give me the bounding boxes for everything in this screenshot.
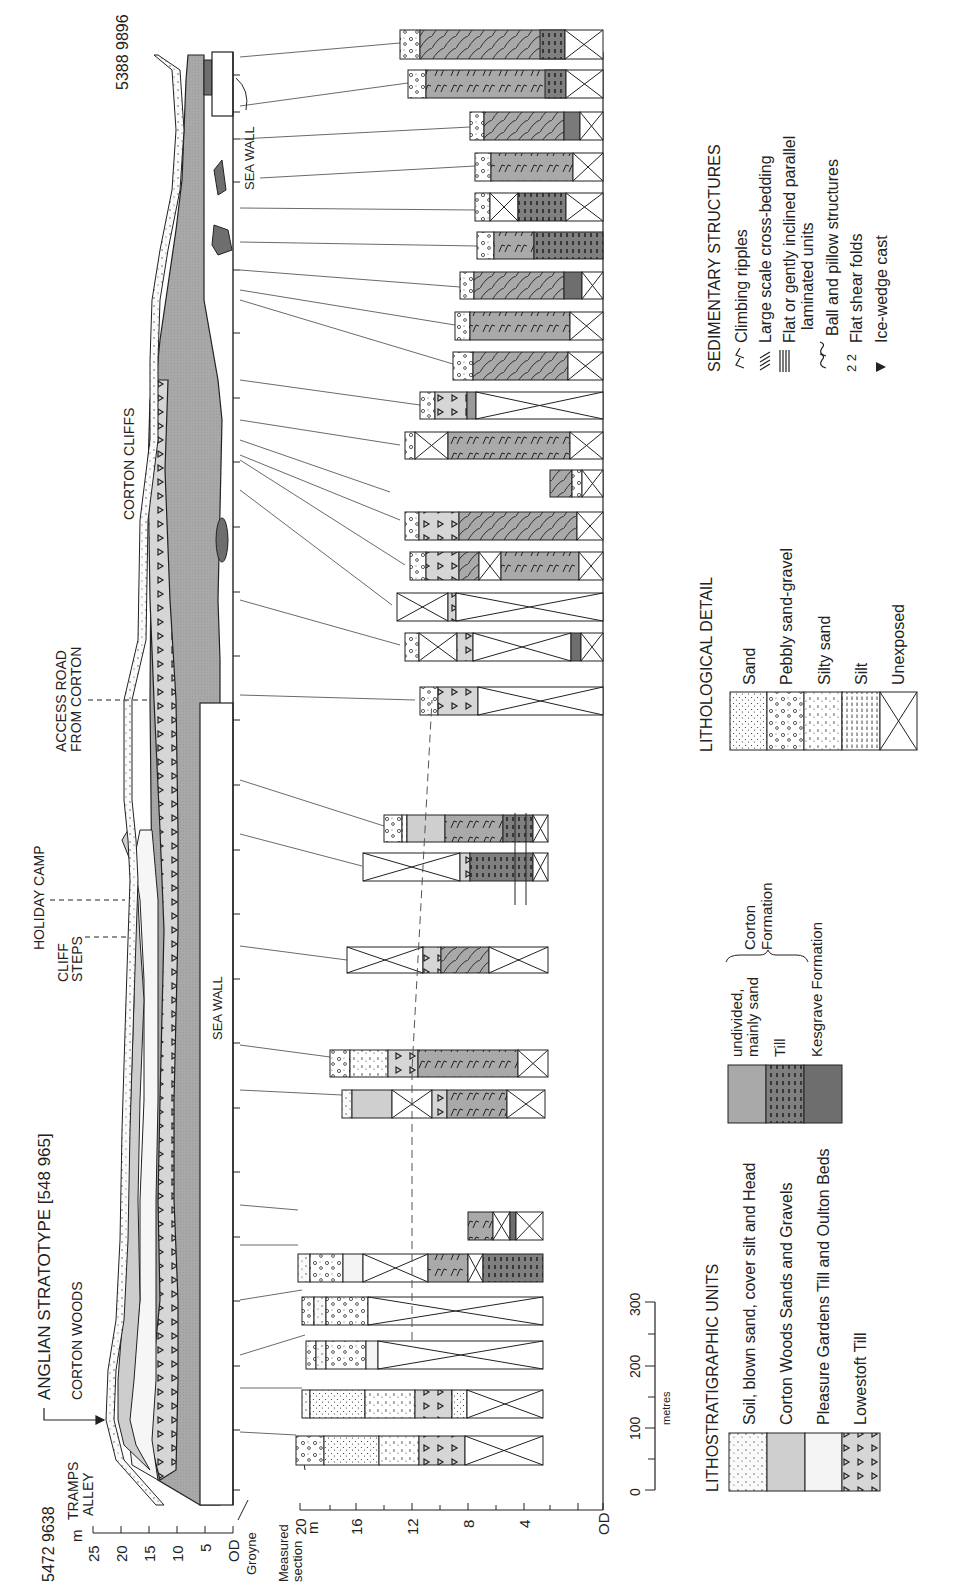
section-column xyxy=(306,1341,543,1369)
section-column xyxy=(302,1297,543,1325)
scale-bar xyxy=(645,1302,655,1490)
legend-pebbly: Pebbly sand-gravel xyxy=(778,548,795,685)
sea-wall-north-label: SEA WALL xyxy=(242,126,257,190)
legend-corton-group-1: Corton xyxy=(741,905,758,950)
legend-climbing-ripples: Climbing ripples xyxy=(733,229,750,343)
legend-sedimentary-title: SEDIMENTARY STRUCTURES xyxy=(706,144,723,372)
legend-undivided-1: undivided, xyxy=(728,989,745,1057)
grid-ref-south: 5472 9638 xyxy=(40,1506,57,1582)
correlation-lines xyxy=(240,43,477,1435)
legend-shear-folds: Flat shear folds xyxy=(848,234,865,343)
profile-tick-od: OD xyxy=(225,1539,242,1562)
label-tramps-alley-1: TRAMPS xyxy=(65,1462,81,1520)
label-cliff-steps-2: STEPS xyxy=(69,936,85,982)
legend-till: Till xyxy=(771,1038,788,1057)
profile-tick-15: 15 xyxy=(141,1545,158,1562)
scale-unit: metres xyxy=(660,1391,672,1425)
section-column xyxy=(384,815,548,842)
scale-tick-200: 200 xyxy=(627,1354,643,1378)
section-column xyxy=(298,1254,543,1282)
measured-section-label-2: section xyxy=(290,1541,305,1582)
legend-ball-pillow: Ball and pillow structures xyxy=(824,159,841,336)
section-column xyxy=(302,1390,543,1418)
legend-kesgrave: Kesgrave Formation xyxy=(808,922,825,1057)
profile-axis-unit: m xyxy=(68,1530,85,1543)
sea-wall-south xyxy=(200,703,233,1505)
section-column xyxy=(453,352,603,380)
climbing-ripples-icon xyxy=(736,348,744,368)
section-column xyxy=(475,193,603,221)
section-column xyxy=(468,1212,543,1240)
section-tick-16: 16 xyxy=(348,1518,365,1535)
legend-silty-sand: Silty sand xyxy=(816,616,833,685)
section-column xyxy=(405,512,603,540)
section-column xyxy=(397,593,603,621)
section-tick-20: 20 xyxy=(292,1518,309,1535)
legend-soil: Soil, blown sand, cover silt and Head xyxy=(741,1163,758,1425)
profile-tick-25: 25 xyxy=(85,1545,102,1562)
legend-sand: Sand xyxy=(741,648,758,685)
legend-lithostratigraphic: LITHOSTRATIGRAPHIC UNITS Soil, blown san… xyxy=(704,1148,880,1492)
diagram-title: ANGLIAN STRATOTYPE [548 965] xyxy=(35,1133,54,1400)
section-column xyxy=(400,30,603,59)
shear-folds-icon: 2 2 xyxy=(844,354,859,372)
legend-lamination-1: Flat or gently inclined parallel xyxy=(781,136,798,343)
section-column xyxy=(455,312,603,340)
legend-corton-woods: Corton Woods Sands and Gravels xyxy=(778,1183,795,1426)
section-column xyxy=(550,470,603,497)
geological-cross-section: m 25 20 15 10 5 OD 5472 9638 5388 9896 T… xyxy=(0,0,961,1588)
scale-tick-0: 0 xyxy=(627,1488,643,1496)
label-corton-woods: CORTON WOODS xyxy=(69,1282,85,1401)
section-column xyxy=(460,272,603,299)
section-column xyxy=(342,1090,545,1118)
legend-silt: Silt xyxy=(853,662,870,685)
legend-lowestoft: Lowestoft Till xyxy=(852,1333,869,1425)
section-column xyxy=(405,432,603,459)
scale-tick-300: 300 xyxy=(627,1292,643,1316)
groyne-label: Groyne xyxy=(244,1532,259,1575)
scale-tick-100: 100 xyxy=(627,1416,643,1440)
measured-section-label-1: Measured xyxy=(276,1524,291,1582)
legend-litho-title: LITHOSTRATIGRAPHIC UNITS xyxy=(704,1264,721,1492)
label-tramps-alley-2: ALLEY xyxy=(80,1472,96,1516)
legend-cross-bedding: Large scale cross-bedding xyxy=(757,155,774,343)
grid-ref-north: 5388 9896 xyxy=(114,14,131,90)
datum-ticks xyxy=(233,75,240,1490)
label-access-road-2: FROM CORTON xyxy=(68,647,84,752)
label-holiday-camp: HOLIDAY CAMP xyxy=(31,845,47,950)
section-tick-od: OD xyxy=(595,1512,612,1535)
sea-wall-south-label: SEA WALL xyxy=(210,976,225,1040)
section-column xyxy=(408,70,603,98)
section-column xyxy=(477,232,603,259)
section-column xyxy=(420,392,603,419)
section-column xyxy=(347,947,548,973)
legend-sedimentary: SEDIMENTARY STRUCTURES 2 2 Climbing ripp… xyxy=(706,136,890,372)
cross-bedding-icon xyxy=(760,352,770,370)
legend-lithological: LITHOLOGICAL DETAIL Sand Pebbly sand-gra… xyxy=(698,548,917,752)
section-column xyxy=(470,112,603,140)
profile-tick-20: 20 xyxy=(113,1545,130,1562)
legend-ice-wedge: Ice-wedge cast xyxy=(873,235,890,343)
section-tick-12: 12 xyxy=(404,1518,421,1535)
ice-wedge-icon xyxy=(876,362,886,372)
profile-tick-5: 5 xyxy=(197,1544,214,1552)
stratotype-pointer xyxy=(44,1408,104,1424)
profile-tick-10: 10 xyxy=(169,1545,186,1562)
brace xyxy=(726,950,808,962)
legend-pleasure-gardens: Pleasure Gardens Till and Oulton Beds xyxy=(815,1148,832,1425)
section-column xyxy=(405,633,603,661)
legend-corton-group-2: Formation xyxy=(758,882,775,950)
section-column xyxy=(296,1436,543,1465)
section-tick-8: 8 xyxy=(460,1520,477,1528)
parallel-lamination-icon xyxy=(780,350,789,372)
section-axis xyxy=(300,52,603,1510)
legend-lithological-title: LITHOLOGICAL DETAIL xyxy=(698,577,715,752)
legend-corton-formation: undivided, mainly sand Till Kesgrave For… xyxy=(726,882,842,1123)
sea-wall-north xyxy=(212,52,233,116)
section-column xyxy=(420,687,603,715)
legend-undivided-2: mainly sand xyxy=(744,977,761,1057)
section-column xyxy=(475,153,603,181)
profile-axis xyxy=(93,1526,233,1533)
section-column xyxy=(330,1050,548,1077)
label-corton-cliffs: CORTON CLIFFS xyxy=(121,408,137,520)
